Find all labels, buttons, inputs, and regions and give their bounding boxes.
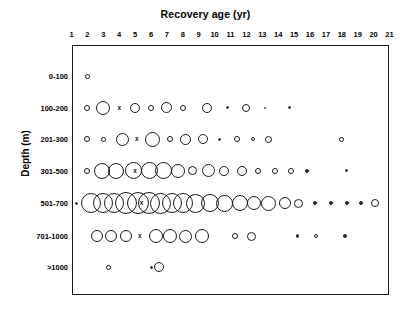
x-tick-10: 10 — [207, 30, 223, 39]
x-tick-21: 21 — [382, 30, 398, 39]
y-tick-301-500: 301-500 — [0, 166, 68, 175]
x-tick-1: 1 — [64, 30, 80, 39]
x-tick-7: 7 — [159, 30, 175, 39]
x-tick-18: 18 — [334, 30, 350, 39]
y-axis-title: Depth (m) — [20, 109, 31, 199]
y-tick--1000: >1000 — [0, 263, 68, 272]
chart-title: Recovery age (yr) — [0, 8, 411, 20]
x-tick-5: 5 — [127, 30, 143, 39]
x-tick-9: 9 — [191, 30, 207, 39]
y-tick-701-1000: 701-1000 — [0, 232, 68, 241]
x-tick-8: 8 — [175, 30, 191, 39]
bubble-chart: Recovery age (yr) 1234567891011121314151… — [0, 0, 411, 315]
x-tick-14: 14 — [270, 30, 286, 39]
x-tick-11: 11 — [223, 30, 239, 39]
plot-frame — [72, 45, 389, 295]
x-tick-16: 16 — [302, 30, 318, 39]
x-tick-3: 3 — [95, 30, 111, 39]
x-tick-2: 2 — [79, 30, 95, 39]
x-tick-15: 15 — [286, 30, 302, 39]
x-tick-6: 6 — [143, 30, 159, 39]
y-tick-501-700: 501-700 — [0, 199, 68, 208]
x-tick-19: 19 — [350, 30, 366, 39]
x-tick-17: 17 — [318, 30, 334, 39]
x-tick-12: 12 — [238, 30, 254, 39]
y-tick-100-200: 100-200 — [0, 103, 68, 112]
x-tick-13: 13 — [254, 30, 270, 39]
y-tick-201-300: 201-300 — [0, 135, 68, 144]
x-tick-4: 4 — [111, 30, 127, 39]
x-tick-20: 20 — [366, 30, 382, 39]
y-tick-0-100: 0-100 — [0, 72, 68, 81]
